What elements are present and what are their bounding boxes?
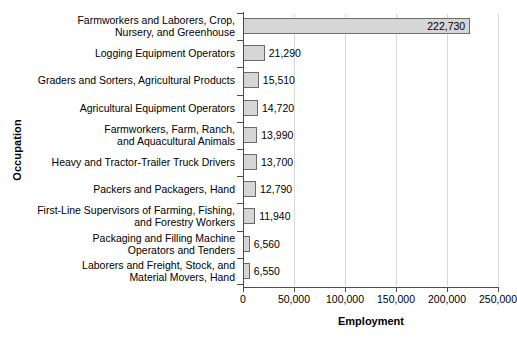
y-axis-tick [237, 284, 243, 285]
category-label: Farmworkers and Laborers, Crop,Nursery, … [26, 14, 235, 38]
y-axis-tick [237, 40, 243, 41]
gridline [447, 14, 448, 286]
bar-value-label: 14,720 [262, 100, 294, 116]
gridline [345, 14, 346, 286]
bar [243, 72, 259, 88]
plot-area: 222,73021,29015,51014,72013,99013,70012,… [243, 14, 498, 286]
y-axis-tick [237, 203, 243, 204]
bar [243, 127, 257, 143]
y-axis-tick [237, 149, 243, 150]
x-axis-tick-label: 150,000 [377, 293, 415, 305]
x-axis-tick [345, 288, 346, 292]
bar-value-label: 15,510 [263, 72, 295, 88]
x-axis-tick-label: 200,000 [428, 293, 466, 305]
bar [243, 154, 257, 170]
y-axis-tick [237, 122, 243, 123]
category-axis-labels: Farmworkers and Laborers, Crop,Nursery, … [26, 14, 239, 286]
category-label: Logging Equipment Operators [26, 47, 235, 59]
bar-value-label: 21,290 [269, 45, 301, 61]
x-axis-tick [447, 288, 448, 292]
x-axis-tick [243, 288, 244, 292]
x-axis-line [243, 287, 499, 288]
y-axis-tick [237, 176, 243, 177]
y-axis-title-label: Occupation [11, 119, 23, 181]
x-axis-tick-label: 50,000 [278, 293, 310, 305]
bar [243, 181, 256, 197]
bar-value-label: 13,700 [261, 154, 293, 170]
x-axis-tick-label: 0 [240, 293, 246, 305]
bar-value-label: 12,790 [260, 181, 292, 197]
x-axis-title: Employment [243, 315, 499, 327]
bar [243, 100, 258, 116]
bar-value-label: 11,940 [259, 208, 290, 224]
y-axis-tick [237, 67, 243, 68]
category-label: Laborers and Freight, Stock, andMaterial… [26, 259, 235, 283]
bar-value-label: 6,560 [254, 236, 280, 252]
y-axis-tick [237, 95, 243, 96]
category-label: Packers and Packagers, Hand [26, 183, 235, 195]
gridline [396, 14, 397, 286]
x-axis-tick-label: 100,000 [326, 293, 364, 305]
x-axis-tick-labels: 050,000100,000150,000200,000250,000 [0, 293, 511, 309]
gridline [498, 14, 499, 286]
bar-value-label: 13,990 [261, 127, 293, 143]
x-axis-tick-label: 250,000 [479, 293, 517, 305]
y-axis-line [243, 12, 244, 288]
category-label: Heavy and Tractor-Trailer Truck Drivers [26, 156, 235, 168]
category-label: Packaging and Filling MachineOperators a… [26, 232, 235, 256]
category-label: Agricultural Equipment Operators [26, 102, 235, 114]
y-axis-tick [237, 231, 243, 232]
bar [243, 208, 255, 224]
bar [243, 263, 250, 279]
bar [243, 236, 250, 252]
bar-value-label: 6,550 [254, 263, 280, 279]
x-axis-tick [294, 288, 295, 292]
category-label: Graders and Sorters, Agricultural Produc… [26, 74, 235, 86]
y-axis-tick [237, 258, 243, 259]
bar [243, 45, 265, 61]
bar-value-label: 222,730 [243, 18, 465, 34]
category-label: Farmworkers, Farm, Ranch,and Aquacultura… [26, 123, 235, 147]
category-label: First-Line Supervisors of Farming, Fishi… [26, 204, 235, 228]
y-axis-title: Occupation [6, 0, 28, 300]
x-axis-tick [396, 288, 397, 292]
x-axis-tick [498, 288, 499, 292]
y-axis-tick [237, 13, 243, 14]
